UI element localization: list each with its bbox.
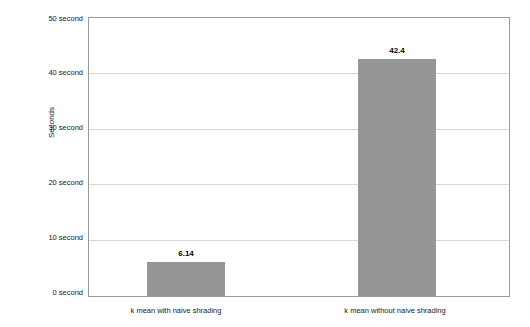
bar-series-1 xyxy=(147,262,225,296)
gridline-30 xyxy=(89,129,509,130)
bar-value-label-1: 6.14 xyxy=(147,249,225,258)
bar-value-label-2: 42.4 xyxy=(358,46,436,55)
plot-area: 6.14 42.4 xyxy=(88,17,510,297)
gridline-40 xyxy=(89,73,509,74)
y-tick-label: 30 second xyxy=(23,123,83,132)
gridline-10 xyxy=(89,240,509,241)
x-category-label-1: k mean with naive shrading xyxy=(86,306,266,315)
x-category-label-2: k mean without naive shrading xyxy=(295,306,495,315)
bar-series-2 xyxy=(358,59,436,296)
y-tick-label: 0 second xyxy=(23,288,83,297)
y-tick-label: 50 second xyxy=(23,14,83,23)
y-tick-label: 10 second xyxy=(23,233,83,242)
bar-chart: Seconds 50 second 40 second 30 second 20… xyxy=(0,0,530,327)
gridline-20 xyxy=(89,184,509,185)
y-tick-label: 20 second xyxy=(23,178,83,187)
y-tick-label: 40 second xyxy=(23,68,83,77)
